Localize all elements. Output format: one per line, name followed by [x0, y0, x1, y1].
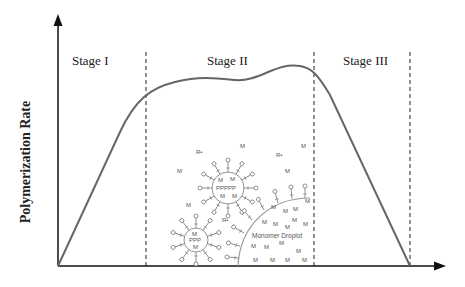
svg-text:M: M — [193, 244, 198, 250]
svg-text:M: M — [279, 240, 284, 246]
svg-text:M: M — [296, 248, 301, 254]
svg-text:R•: R• — [222, 217, 228, 223]
svg-text:Monomer Droplot: Monomer Droplot — [252, 232, 302, 240]
svg-text:PPPPP: PPPPP — [216, 185, 236, 191]
svg-text:M: M — [253, 257, 258, 263]
svg-text:M: M — [293, 206, 298, 212]
svg-text:M: M — [301, 143, 306, 149]
svg-text:M: M — [251, 243, 256, 249]
svg-text:M: M — [262, 219, 267, 225]
svg-text:PPP: PPP — [189, 237, 201, 243]
svg-text:M: M — [230, 176, 235, 182]
svg-text:M: M — [273, 221, 278, 227]
svg-text:M: M — [283, 208, 288, 214]
svg-text:M: M — [177, 168, 182, 174]
micelle-large: MM PPPPP MM — [198, 158, 258, 218]
svg-text:M: M — [303, 221, 308, 227]
svg-text:M: M — [270, 257, 275, 263]
svg-text:M: M — [218, 177, 223, 183]
svg-text:M: M — [285, 168, 290, 174]
svg-text:M: M — [264, 244, 269, 250]
rate-curve — [58, 65, 410, 266]
svg-text:R•: R• — [196, 149, 202, 155]
monomer-droplet: Monomer Droplot MMM MMMM M MMMM MMMM M — [225, 184, 310, 266]
svg-text:M: M — [285, 257, 290, 263]
svg-text:M: M — [305, 198, 310, 204]
svg-text:M: M — [302, 257, 307, 263]
svg-text:M: M — [292, 217, 297, 223]
svg-text:R•: R• — [276, 152, 282, 158]
svg-text:M: M — [220, 193, 225, 199]
polymerization-diagram: MM PPPPP MM M PPP M Monomer Droplot MMM … — [0, 0, 465, 287]
svg-text:M: M — [271, 204, 276, 210]
svg-text:M: M — [232, 193, 237, 199]
svg-text:M: M — [240, 143, 245, 149]
micelle-small: M PPP M — [171, 214, 222, 266]
svg-text:M: M — [285, 224, 290, 230]
svg-text:M: M — [186, 202, 191, 208]
